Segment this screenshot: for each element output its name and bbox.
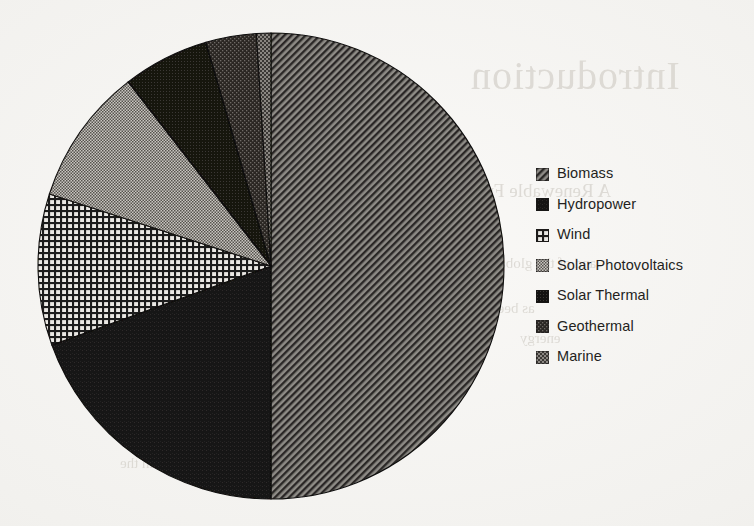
legend-swatch-icon xyxy=(536,197,549,210)
legend-item-label: Hydropower xyxy=(557,197,636,212)
legend-item-solar-photovoltaics[interactable]: Solar Photovoltaics xyxy=(536,250,746,281)
legend-swatch-icon xyxy=(536,228,549,241)
chart-legend: BiomassHydropowerWindSolar Photovoltaics… xyxy=(536,158,746,372)
legend-swatch-icon xyxy=(536,319,549,332)
legend-swatch-icon xyxy=(536,289,549,302)
legend-item-label: Geothermal xyxy=(557,319,634,334)
legend-item-label: Marine xyxy=(557,349,602,364)
legend-item-label: Biomass xyxy=(557,166,613,181)
legend-item-label: Wind xyxy=(557,227,590,242)
legend-item-label: Solar Photovoltaics xyxy=(557,258,683,273)
pie-slices-group xyxy=(38,33,504,499)
legend-item-wind[interactable]: Wind xyxy=(536,219,746,250)
legend-item-solar-thermal[interactable]: Solar Thermal xyxy=(536,280,746,311)
legend-swatch-icon xyxy=(536,350,549,363)
legend-swatch-icon xyxy=(536,167,549,180)
pie-slice-biomass[interactable] xyxy=(271,33,504,499)
legend-item-hydropower[interactable]: Hydropower xyxy=(536,189,746,220)
legend-item-biomass[interactable]: Biomass xyxy=(536,158,746,189)
legend-item-geothermal[interactable]: Geothermal xyxy=(536,311,746,342)
legend-item-label: Solar Thermal xyxy=(557,288,649,303)
legend-item-marine[interactable]: Marine xyxy=(536,341,746,372)
legend-swatch-icon xyxy=(536,258,549,271)
